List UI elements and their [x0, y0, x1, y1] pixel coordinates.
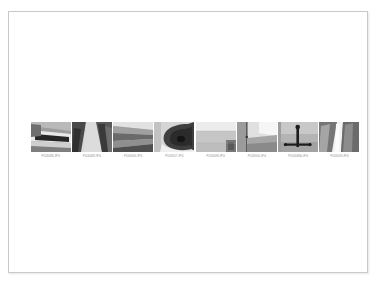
- thumbnail-cell[interactable]: P1030488.JPG: [71, 122, 112, 159]
- thumbnail-image[interactable]: [154, 122, 194, 152]
- thumbnail-cell[interactable]: P1030486b.JPG: [278, 122, 319, 159]
- thumbnail-image[interactable]: [278, 122, 318, 152]
- thumbnail-caption: P1030500.JPG: [248, 155, 266, 159]
- ribbed-canopy-icon: [72, 122, 112, 152]
- pale-panel-icon: [196, 122, 236, 152]
- thumbnail-image[interactable]: [31, 122, 71, 152]
- thumbnail-caption: P1030509.JPG: [330, 155, 348, 159]
- thumbnail-caption: P1030486.JPG: [42, 155, 60, 159]
- thumbnail-image[interactable]: [113, 122, 153, 152]
- thumbnail-caption: P1030498.JPG: [207, 155, 225, 159]
- thumbnail-caption: P1030490.JPG: [124, 155, 142, 159]
- screenshot-viewport: P1030486.JPG P1030488.JPG: [0, 0, 377, 285]
- thumbnail-image[interactable]: [319, 122, 359, 152]
- light-shaft-icon: [319, 122, 359, 152]
- diagonal-beam-icon: [113, 122, 153, 152]
- thumbnail-cell[interactable]: P1030500.JPG: [236, 122, 277, 159]
- document-page: P1030486.JPG P1030488.JPG: [8, 11, 368, 273]
- thumbnail-cell[interactable]: P1030486.JPG: [30, 122, 71, 159]
- thumbnail-cell[interactable]: P1030517.JPG: [154, 122, 195, 159]
- thumbnail-cell[interactable]: P1030498.JPG: [195, 122, 236, 159]
- thumbnail-cell[interactable]: P1030490.JPG: [113, 122, 154, 159]
- thumbnail-image[interactable]: [237, 122, 277, 152]
- thumbnail-image[interactable]: [72, 122, 112, 152]
- facade-dark-band-icon: [31, 122, 71, 152]
- thumbnail-caption: P1030486b.JPG: [288, 155, 308, 159]
- thumbnail-caption: P1030517.JPG: [165, 155, 183, 159]
- corner-post-icon: [237, 122, 277, 152]
- t-mast-icon: [278, 122, 318, 152]
- thumbnail-cell[interactable]: P1030509.JPG: [319, 122, 360, 159]
- thumbnail-image[interactable]: [196, 122, 236, 152]
- curved-form-icon: [154, 122, 194, 152]
- thumbnail-caption: P1030488.JPG: [83, 155, 101, 159]
- contact-sheet-strip: P1030486.JPG P1030488.JPG: [30, 122, 360, 159]
